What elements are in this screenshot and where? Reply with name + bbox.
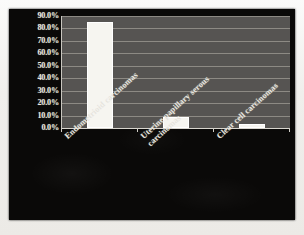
y-axis-tick-labels: 0.0%10.0%20.0%30.0%40.0%50.0%60.0%70.0%8… xyxy=(15,16,59,128)
x-axis-tick xyxy=(213,128,214,132)
y-tick-label: 60.0% xyxy=(15,49,59,57)
y-tick-label: 70.0% xyxy=(15,37,59,45)
chart-canvas: 0.0%10.0%20.0%30.0%40.0%50.0%60.0%70.0%8… xyxy=(9,9,295,220)
x-axis-tick xyxy=(137,128,138,132)
y-tick-label: 90.0% xyxy=(15,12,59,20)
y-tick-label: 10.0% xyxy=(15,112,59,120)
y-tick-label: 40.0% xyxy=(15,74,59,82)
y-tick-label: 80.0% xyxy=(15,24,59,32)
y-tick-label: 20.0% xyxy=(15,99,59,107)
x-axis-tick xyxy=(61,128,62,132)
figure-root: 0.0%10.0%20.0%30.0%40.0%50.0%60.0%70.0%8… xyxy=(0,0,304,235)
x-axis-category-labels: Endometrioid carcinomasUterine papillary… xyxy=(9,128,295,220)
y-tick-label: 30.0% xyxy=(15,87,59,95)
y-tick-label: 50.0% xyxy=(15,62,59,70)
x-axis-tick xyxy=(289,128,290,132)
